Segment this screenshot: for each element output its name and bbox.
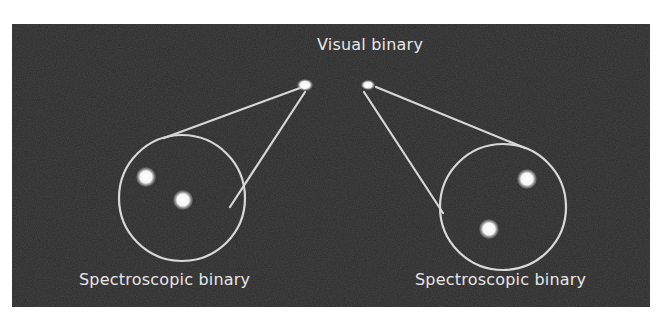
visual-binary-label: Visual binary bbox=[317, 35, 423, 54]
diagram-canvas bbox=[12, 24, 650, 307]
spectroscopic-binary-label-right: Spectroscopic binary bbox=[415, 270, 586, 289]
top-text-remnant bbox=[0, 0, 667, 10]
binary-star-diagram-panel: Visual binary Spectroscopic binary Spect… bbox=[12, 24, 650, 307]
spectroscopic-binary-label-left: Spectroscopic binary bbox=[79, 270, 250, 289]
spectroscopic-right-star-2-icon bbox=[479, 219, 499, 239]
visual-star-left-icon bbox=[297, 79, 313, 91]
spectroscopic-left-star-2-icon bbox=[173, 190, 193, 210]
spectroscopic-left-star-1-icon bbox=[136, 167, 156, 187]
spectroscopic-right-star-1-icon bbox=[517, 169, 537, 189]
panel-noise-texture bbox=[12, 24, 650, 307]
visual-star-right-icon bbox=[361, 80, 375, 90]
